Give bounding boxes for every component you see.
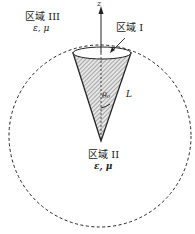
- length-label: L: [126, 90, 132, 99]
- cone-diagram: [0, 0, 195, 234]
- cone-top-ellipse: [73, 47, 131, 59]
- region1-name: 区域 I: [116, 23, 143, 33]
- axis-label: z: [97, 0, 101, 8]
- angle-label: θ₀: [102, 92, 110, 100]
- region2-params: ε, μ: [94, 162, 112, 171]
- region3-name: 区域 III: [25, 12, 60, 22]
- region2-name: 区域 II: [88, 150, 119, 160]
- region3-params: ε, μ: [33, 24, 49, 33]
